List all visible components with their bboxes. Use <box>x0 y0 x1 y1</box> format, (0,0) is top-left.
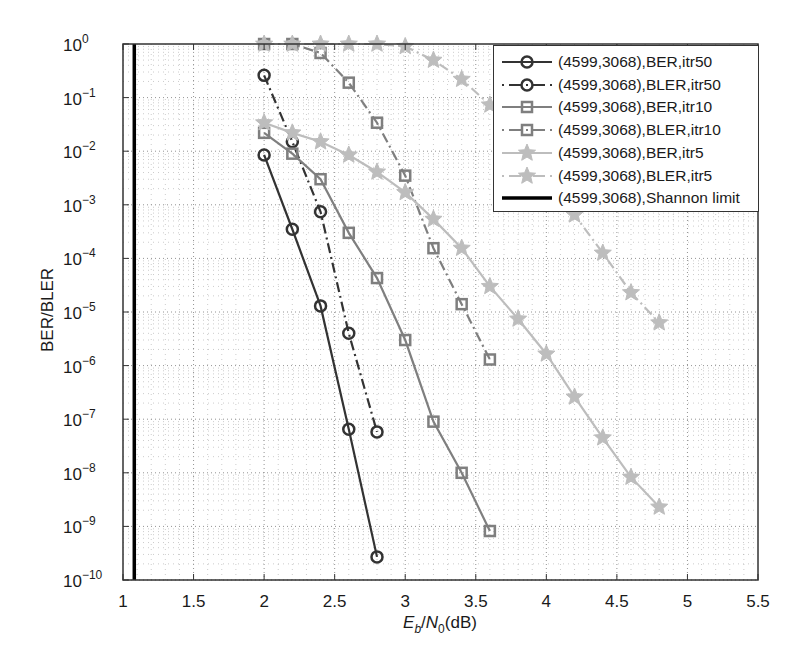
legend-swatch-icon <box>500 74 554 96</box>
y-tick-labels: 10010−110−210−310−410−510−610−710−810−91… <box>63 32 103 591</box>
series-3 <box>259 39 495 364</box>
x-tick-label: 2.5 <box>323 592 347 611</box>
legend-label: (4599,3068),Shannon limit <box>558 187 740 209</box>
star-marker-icon <box>518 144 535 160</box>
x-tick-label: 3 <box>400 592 409 611</box>
star-marker-icon <box>340 35 357 51</box>
legend-item: (4599,3068),BER,itr10 <box>494 96 758 118</box>
legend-swatch-icon <box>500 51 554 73</box>
y-tick-label: 10−7 <box>63 407 96 430</box>
legend-label: (4599,3068),BER,itr10 <box>558 96 712 118</box>
legend-item: (4599,3068),BLER,itr5 <box>494 165 758 187</box>
legend-label: (4599,3068),BER,itr5 <box>558 142 704 164</box>
legend-label: (4599,3068),BLER,itr50 <box>558 74 721 96</box>
legend-item: (4599,3068),BER,itr5 <box>494 142 758 164</box>
x-tick-label: 4 <box>542 592 551 611</box>
x-tick-label: 2 <box>259 592 268 611</box>
x-tick-label: 3.5 <box>464 592 488 611</box>
legend-item: (4599,3068),BLER,itr50 <box>494 74 758 96</box>
legend-item: (4599,3068),BER,itr50 <box>494 51 758 73</box>
star-marker-icon <box>518 167 535 183</box>
y-tick-label: 100 <box>63 32 89 55</box>
x-tick-label: 5 <box>683 592 692 611</box>
legend-item: (4599,3068),Shannon limit <box>494 187 758 209</box>
legend-item: (4599,3068),BLER,itr10 <box>494 119 758 141</box>
y-tick-label: 10−3 <box>63 193 96 216</box>
y-tick-label: 10−4 <box>63 246 96 269</box>
legend: (4599,3068),BER,itr50(4599,3068),BLER,it… <box>493 45 759 212</box>
y-tick-label: 10−10 <box>63 568 103 591</box>
x-tick-labels: 11.522.533.544.555.5 <box>118 592 770 611</box>
star-marker-icon <box>566 388 583 404</box>
x-label-unit: (dB) <box>445 613 477 632</box>
x-tick-label: 1 <box>118 592 127 611</box>
y-axis-label: BER/BLER <box>38 268 57 352</box>
legend-label: (4599,3068),BLER,itr10 <box>558 119 721 141</box>
legend-label: (4599,3068),BLER,itr5 <box>558 165 712 187</box>
ber-bler-chart: 11.522.533.544.555.5 10010−110−210−310−4… <box>0 0 809 669</box>
x-axis-label: Eb/N0(dB) <box>403 613 477 636</box>
x-label-n: N <box>426 613 439 632</box>
legend-swatch-icon <box>500 119 554 141</box>
y-tick-label: 10−9 <box>63 514 96 537</box>
series-line <box>264 44 490 359</box>
star-marker-icon <box>651 314 668 330</box>
x-tick-label: 5.5 <box>746 592 770 611</box>
legend-swatch-icon <box>500 142 554 164</box>
circle-marker-icon <box>259 70 270 81</box>
y-tick-label: 10−5 <box>63 300 96 323</box>
legend-label: (4599,3068),BER,itr50 <box>558 51 712 73</box>
circle-marker-icon <box>372 426 383 437</box>
star-marker-icon <box>312 133 329 149</box>
x-tick-label: 1.5 <box>182 592 206 611</box>
legend-swatch-icon <box>500 96 554 118</box>
series-line <box>264 155 377 557</box>
y-tick-label: 10−6 <box>63 354 96 377</box>
legend-swatch-icon <box>500 165 554 187</box>
y-tick-label: 10−2 <box>63 139 96 162</box>
star-marker-icon <box>368 35 385 51</box>
y-tick-label: 10−8 <box>63 461 96 484</box>
x-tick-label: 4.5 <box>605 592 629 611</box>
x-label-e: E <box>403 613 415 632</box>
y-tick-label: 10−1 <box>63 86 96 109</box>
legend-swatch-icon <box>500 187 554 209</box>
